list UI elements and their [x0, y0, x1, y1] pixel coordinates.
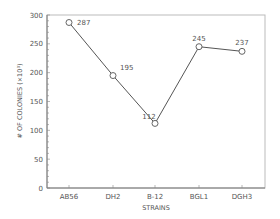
line-chart: 050100150200250300 AB56DH2B-12BGL1DGH3 2… [0, 0, 280, 219]
y-axis-title: # OF COLONIES (×10³) [16, 63, 24, 138]
data-markers [66, 19, 245, 126]
x-tick-label: B-12 [147, 193, 163, 201]
data-label: 195 [120, 64, 133, 72]
y-tick-label: 250 [30, 40, 43, 48]
y-tick-label: 50 [34, 156, 43, 164]
x-tick-label: DH2 [105, 193, 120, 201]
data-point-marker [239, 48, 245, 54]
y-tick-label: 150 [30, 98, 43, 106]
data-point-marker [66, 19, 72, 25]
y-tick-label: 200 [30, 69, 43, 77]
x-ticks: AB56DH2B-12BGL1DGH3 [60, 185, 253, 201]
data-label: 112 [142, 113, 155, 121]
plot-frame [47, 15, 265, 188]
y-tick-label: 0 [39, 185, 43, 193]
data-label: 287 [77, 19, 90, 27]
x-axis-title: STRAINS [142, 204, 170, 212]
x-tick-label: BGL1 [190, 193, 208, 201]
data-label: 237 [235, 39, 248, 47]
series-line [69, 22, 242, 123]
x-tick-label: AB56 [60, 193, 79, 201]
data-label: 245 [192, 35, 205, 43]
data-point-marker [196, 44, 202, 50]
y-tick-label: 100 [30, 127, 43, 135]
x-tick-label: DGH3 [232, 193, 253, 201]
y-tick-label: 300 [30, 12, 43, 20]
data-labels: 287195112245237 [77, 19, 249, 121]
data-point-marker [110, 73, 116, 79]
